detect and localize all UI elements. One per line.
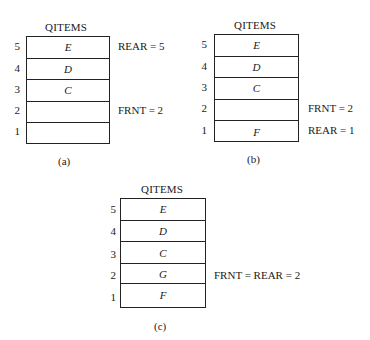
array-cell-5: E [121,199,205,221]
cell-value: E [65,41,72,53]
cell-value: E [253,39,260,51]
array-cell-4: D [121,221,205,243]
row-index: 5 [10,40,20,52]
cell-value: C [159,247,166,259]
array-cell-2 [27,102,109,124]
rear-pointer-label: REAR = 1 [308,124,355,136]
array-cell-5: E [27,37,109,59]
array-title: QITEMS [234,19,276,31]
array-cell-2 [215,100,298,122]
figure-caption: (a) [58,155,70,167]
figure-caption: (c) [154,320,166,332]
cell-value: G [159,268,167,280]
front-rear-pointer-label: FRNT = REAR = 2 [214,269,300,281]
row-index: 3 [106,248,116,260]
cell-value: D [253,61,261,73]
figure-caption: (b) [247,153,260,165]
row-index: 3 [197,81,207,93]
row-index: 2 [10,104,20,116]
cell-value: C [64,84,71,96]
array-cell-4: D [215,57,298,79]
row-index: 1 [106,291,116,303]
cell-value: D [159,225,167,237]
array-title: QITEMS [141,183,183,195]
array-cell-3: C [215,78,298,100]
row-index: 5 [197,38,207,50]
row-index: 3 [10,83,20,95]
qitems-array: E D C F [214,34,299,142]
row-index: 5 [106,203,116,215]
row-index: 1 [10,125,20,137]
cell-value: F [253,126,260,138]
queue-diagram-c: QITEMS 5 4 3 2 1 E D C G F FRNT = REAR =… [90,165,370,340]
row-index: 4 [10,62,20,74]
queue-diagram-b: QITEMS 5 4 3 2 1 E D C F FRNT = 2 REAR =… [185,0,370,170]
row-index: 2 [106,269,116,281]
cell-value: E [160,203,167,215]
rear-pointer-label: REAR = 5 [118,40,165,52]
array-cell-4: D [27,59,109,81]
cell-value: F [160,289,167,301]
array-cell-2: G [121,264,205,284]
array-cell-1 [27,123,109,145]
front-pointer-label: FRNT = 2 [308,102,353,114]
qitems-array: E D C G F [120,198,206,308]
array-title: QITEMS [45,21,87,33]
row-index: 4 [106,225,116,237]
array-cell-3: C [121,242,205,264]
array-cell-1: F [215,121,298,143]
front-pointer-label: FRNT = 2 [118,104,163,116]
row-index: 1 [197,124,207,136]
array-cell-1: F [121,284,205,307]
row-index: 2 [197,102,207,114]
cell-value: D [64,63,72,75]
row-index: 4 [197,60,207,72]
array-cell-3: C [27,80,109,102]
cell-value: C [253,82,260,94]
array-cell-5: E [215,35,298,57]
queue-diagram-a: QITEMS 5 4 3 2 1 E D C REAR = 5 FRNT = 2… [0,0,185,170]
qitems-array: E D C [26,36,110,144]
